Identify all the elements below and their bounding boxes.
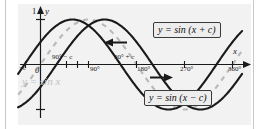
shift-left-callout: y = sin (x + c) [153, 22, 221, 38]
x-axis-label: x [233, 47, 237, 56]
x-tick-label-90: 90° [90, 66, 100, 73]
x-tick-label-270: 270° [180, 66, 193, 73]
y-axis-max-label: 1 [32, 7, 36, 16]
sine-translation-figure: 1 y x 0 −c 90° − c 90° 90° + c 180° 270°… [0, 0, 259, 129]
x-tick-label-360: 360° [228, 66, 241, 73]
x-tick-label-90-minus-c: 90° − c [52, 54, 72, 61]
x-tick-label-minus-c: −c [19, 65, 26, 72]
x-tick-label-90-plus-c: 90° + c [114, 54, 134, 61]
y-axis-label: y [45, 7, 49, 16]
y-axis-arrowhead [37, 6, 44, 14]
origin-label: 0 [35, 66, 39, 75]
translate-right-arrow [150, 73, 173, 81]
x-tick-label-180: 180° [137, 66, 150, 73]
base-curve-label: y = sin x [22, 76, 60, 87]
x-axis-arrowhead [243, 61, 251, 68]
shift-right-callout: y = sin (x − c) [144, 90, 212, 106]
